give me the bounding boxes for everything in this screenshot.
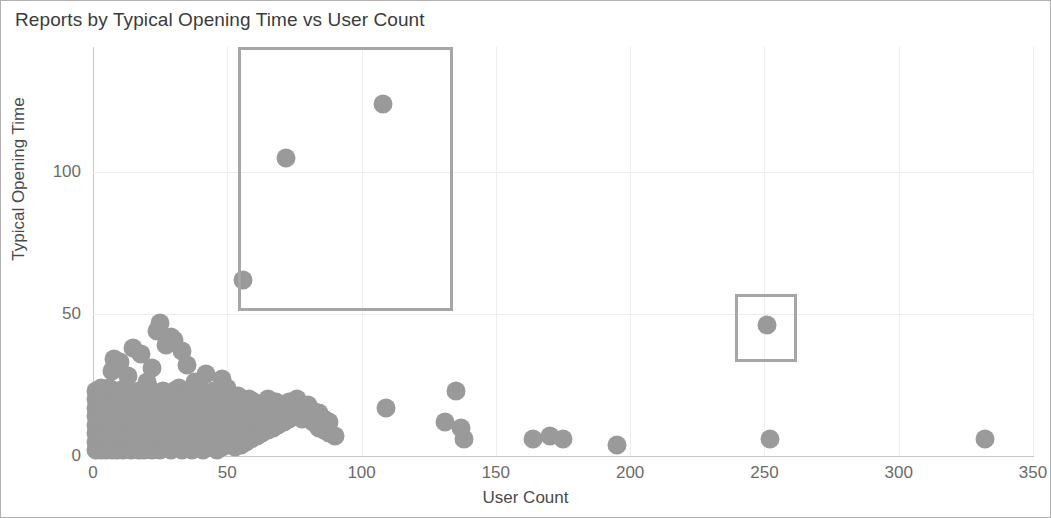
- scatter-point: [113, 398, 132, 417]
- scatter-point: [86, 424, 105, 443]
- scatter-point: [247, 427, 266, 446]
- scatter-point: [164, 424, 183, 443]
- scatter-point: [223, 418, 242, 437]
- scatter-point: [140, 438, 159, 457]
- scatter-point: [202, 407, 221, 426]
- scatter-point: [255, 415, 274, 434]
- scatter-point: [204, 381, 223, 400]
- scatter-point: [126, 424, 145, 443]
- large-outlier-selection[interactable]: [238, 47, 453, 311]
- scatter-point: [272, 395, 291, 414]
- scatter-point: [172, 404, 191, 423]
- scatter-point: [102, 412, 121, 431]
- scatter-point: [100, 438, 119, 457]
- scatter-point: [108, 421, 127, 440]
- scatter-point: [285, 395, 304, 414]
- scatter-point: [280, 393, 299, 412]
- scatter-point: [167, 415, 186, 434]
- scatter-point: [102, 424, 121, 443]
- scatter-point: [108, 381, 127, 400]
- scatter-point: [135, 410, 154, 429]
- scatter-point: [137, 424, 156, 443]
- scatter-point: [118, 390, 137, 409]
- small-outlier-selection[interactable]: [735, 294, 797, 362]
- scatter-point: [298, 407, 317, 426]
- scatter-point: [140, 395, 159, 414]
- scatter-point: [210, 404, 229, 423]
- scatter-point: [167, 390, 186, 409]
- scatter-point: [220, 412, 239, 431]
- scatter-point: [159, 435, 178, 454]
- scatter-point: [194, 410, 213, 429]
- scatter-point: [110, 393, 129, 412]
- scatter-point: [258, 407, 277, 426]
- scatter-point: [229, 415, 248, 434]
- scatter-point: [288, 390, 307, 409]
- scatter-point: [239, 410, 258, 429]
- scatter-point: [132, 427, 151, 446]
- scatter-point: [167, 401, 186, 420]
- scatter-point: [94, 381, 113, 400]
- scatter-point: [126, 435, 145, 454]
- scatter-point: [156, 401, 175, 420]
- scatter-point: [186, 373, 205, 392]
- scatter-point: [92, 378, 111, 397]
- scatter-point: [202, 395, 221, 414]
- scatter-point: [183, 395, 202, 414]
- x-tick-label: 0: [88, 463, 97, 483]
- scatter-point: [105, 427, 124, 446]
- scatter-point: [105, 407, 124, 426]
- scatter-point: [89, 384, 108, 403]
- scatter-point: [250, 404, 269, 423]
- x-tick-label: 100: [347, 463, 375, 483]
- scatter-point: [263, 404, 282, 423]
- scatter-point: [100, 398, 119, 417]
- x-axis-line: [93, 456, 1034, 457]
- scatter-point: [161, 429, 180, 448]
- scatter-point: [183, 429, 202, 448]
- scatter-point: [151, 412, 170, 431]
- scatter-point: [97, 401, 116, 420]
- scatter-point: [204, 435, 223, 454]
- scatter-point: [102, 404, 121, 423]
- y-tick-label: 50: [62, 304, 81, 324]
- scatter-point: [94, 418, 113, 437]
- scatter-point: [180, 390, 199, 409]
- scatter-point: [118, 398, 137, 417]
- scatter-point: [89, 410, 108, 429]
- scatter-point: [607, 435, 626, 454]
- scatter-point: [132, 390, 151, 409]
- scatter-point: [140, 418, 159, 437]
- scatter-point: [118, 438, 137, 457]
- scatter-point: [129, 418, 148, 437]
- scatter-point: [110, 404, 129, 423]
- scatter-point: [175, 384, 194, 403]
- scatter-point: [135, 432, 154, 451]
- gridline-vertical: [227, 47, 228, 456]
- scatter-point: [89, 401, 108, 420]
- scatter-point: [140, 429, 159, 448]
- scatter-point: [137, 435, 156, 454]
- x-tick-label: 150: [482, 463, 510, 483]
- scatter-point: [304, 401, 323, 420]
- scatter-point: [175, 395, 194, 414]
- y-axis-tick-labels: 050100: [1, 1, 81, 518]
- scatter-point: [89, 438, 108, 457]
- scatter-point: [143, 401, 162, 420]
- scatter-point: [178, 438, 197, 457]
- scatter-point: [100, 429, 119, 448]
- scatter-point: [100, 378, 119, 397]
- scatter-point: [540, 427, 559, 446]
- scatter-point: [204, 421, 223, 440]
- scatter-point: [151, 313, 170, 332]
- scatter-point: [253, 395, 272, 414]
- scatter-point: [975, 429, 994, 448]
- scatter-point: [145, 398, 164, 417]
- scatter-point: [226, 395, 245, 414]
- plot-area: [93, 47, 1033, 456]
- scatter-point: [191, 378, 210, 397]
- scatter-point: [239, 390, 258, 409]
- scatter-point: [231, 407, 250, 426]
- scatter-point: [129, 429, 148, 448]
- scatter-point: [94, 427, 113, 446]
